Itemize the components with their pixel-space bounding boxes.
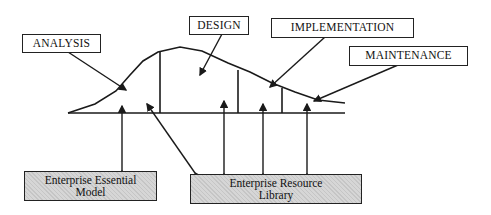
maintenance-leader	[314, 65, 398, 101]
design-leader	[200, 34, 222, 75]
phase-label-analysis: ANALYSIS	[22, 34, 101, 53]
phase-label-design: DESIGN	[189, 16, 249, 35]
implementation-leader	[270, 37, 325, 87]
phase-label-maintenance: MAINTENANCE	[349, 46, 468, 66]
repository-resource-library: Enterprise Resource Library	[190, 174, 362, 204]
arrow-analysis-resource-library	[147, 104, 195, 173]
analysis-leader	[68, 52, 126, 90]
phase-label-implementation: IMPLEMENTATION	[271, 18, 414, 38]
repository-essential-model-line2: Model	[25, 186, 156, 198]
repository-essential-model: Enterprise Essential Model	[24, 171, 157, 201]
repository-resource-library-line2: Library	[191, 189, 361, 201]
repository-resource-library-line1: Enterprise Resource	[191, 177, 361, 189]
repository-essential-model-line1: Enterprise Essential	[25, 174, 156, 186]
